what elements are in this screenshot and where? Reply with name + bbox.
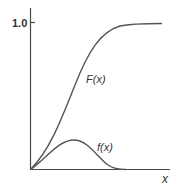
y-tick-label: 1.0 <box>12 17 27 29</box>
cdf-label: F(x) <box>86 73 106 85</box>
x-axis-label: x <box>161 172 169 186</box>
chart: 1.0 F(x) f(x) x <box>0 0 180 186</box>
pdf-label: f(x) <box>97 141 113 153</box>
